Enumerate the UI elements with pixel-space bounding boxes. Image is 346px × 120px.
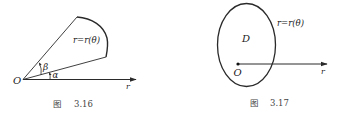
upper-boundary-ray bbox=[23, 17, 77, 80]
curve-equation-label: r=r(θ) bbox=[73, 35, 100, 45]
region-label: D bbox=[241, 33, 250, 44]
figure-caption-number: 3.17 bbox=[270, 98, 289, 108]
beta-label: β bbox=[42, 62, 48, 72]
axis-label: r bbox=[126, 82, 131, 91]
alpha-arc-icon bbox=[50, 73, 51, 80]
lower-boundary-ray bbox=[23, 57, 106, 80]
alpha-label: α bbox=[53, 70, 59, 80]
figure-caption-prefix: 图 bbox=[53, 99, 62, 109]
axis-label: r bbox=[321, 67, 326, 76]
figure-caption-number: 3.16 bbox=[74, 99, 93, 109]
diagram-canvas: O r r=r(θ) β α 图 3.16 D O r r=r(θ) 图 3.1… bbox=[0, 0, 346, 120]
figure-caption-prefix: 图 bbox=[250, 98, 259, 108]
beta-arc-icon bbox=[40, 63, 42, 75]
curve-equation-label: r=r(θ) bbox=[277, 18, 304, 28]
origin-label: O bbox=[234, 67, 242, 78]
figure-3-17: D O r r=r(θ) 图 3.17 bbox=[218, 4, 328, 109]
closed-polar-curve bbox=[218, 4, 276, 87]
origin-label: O bbox=[13, 75, 21, 86]
figure-3-16: O r r=r(θ) β α 图 3.16 bbox=[13, 17, 136, 109]
origin-point bbox=[236, 62, 239, 65]
